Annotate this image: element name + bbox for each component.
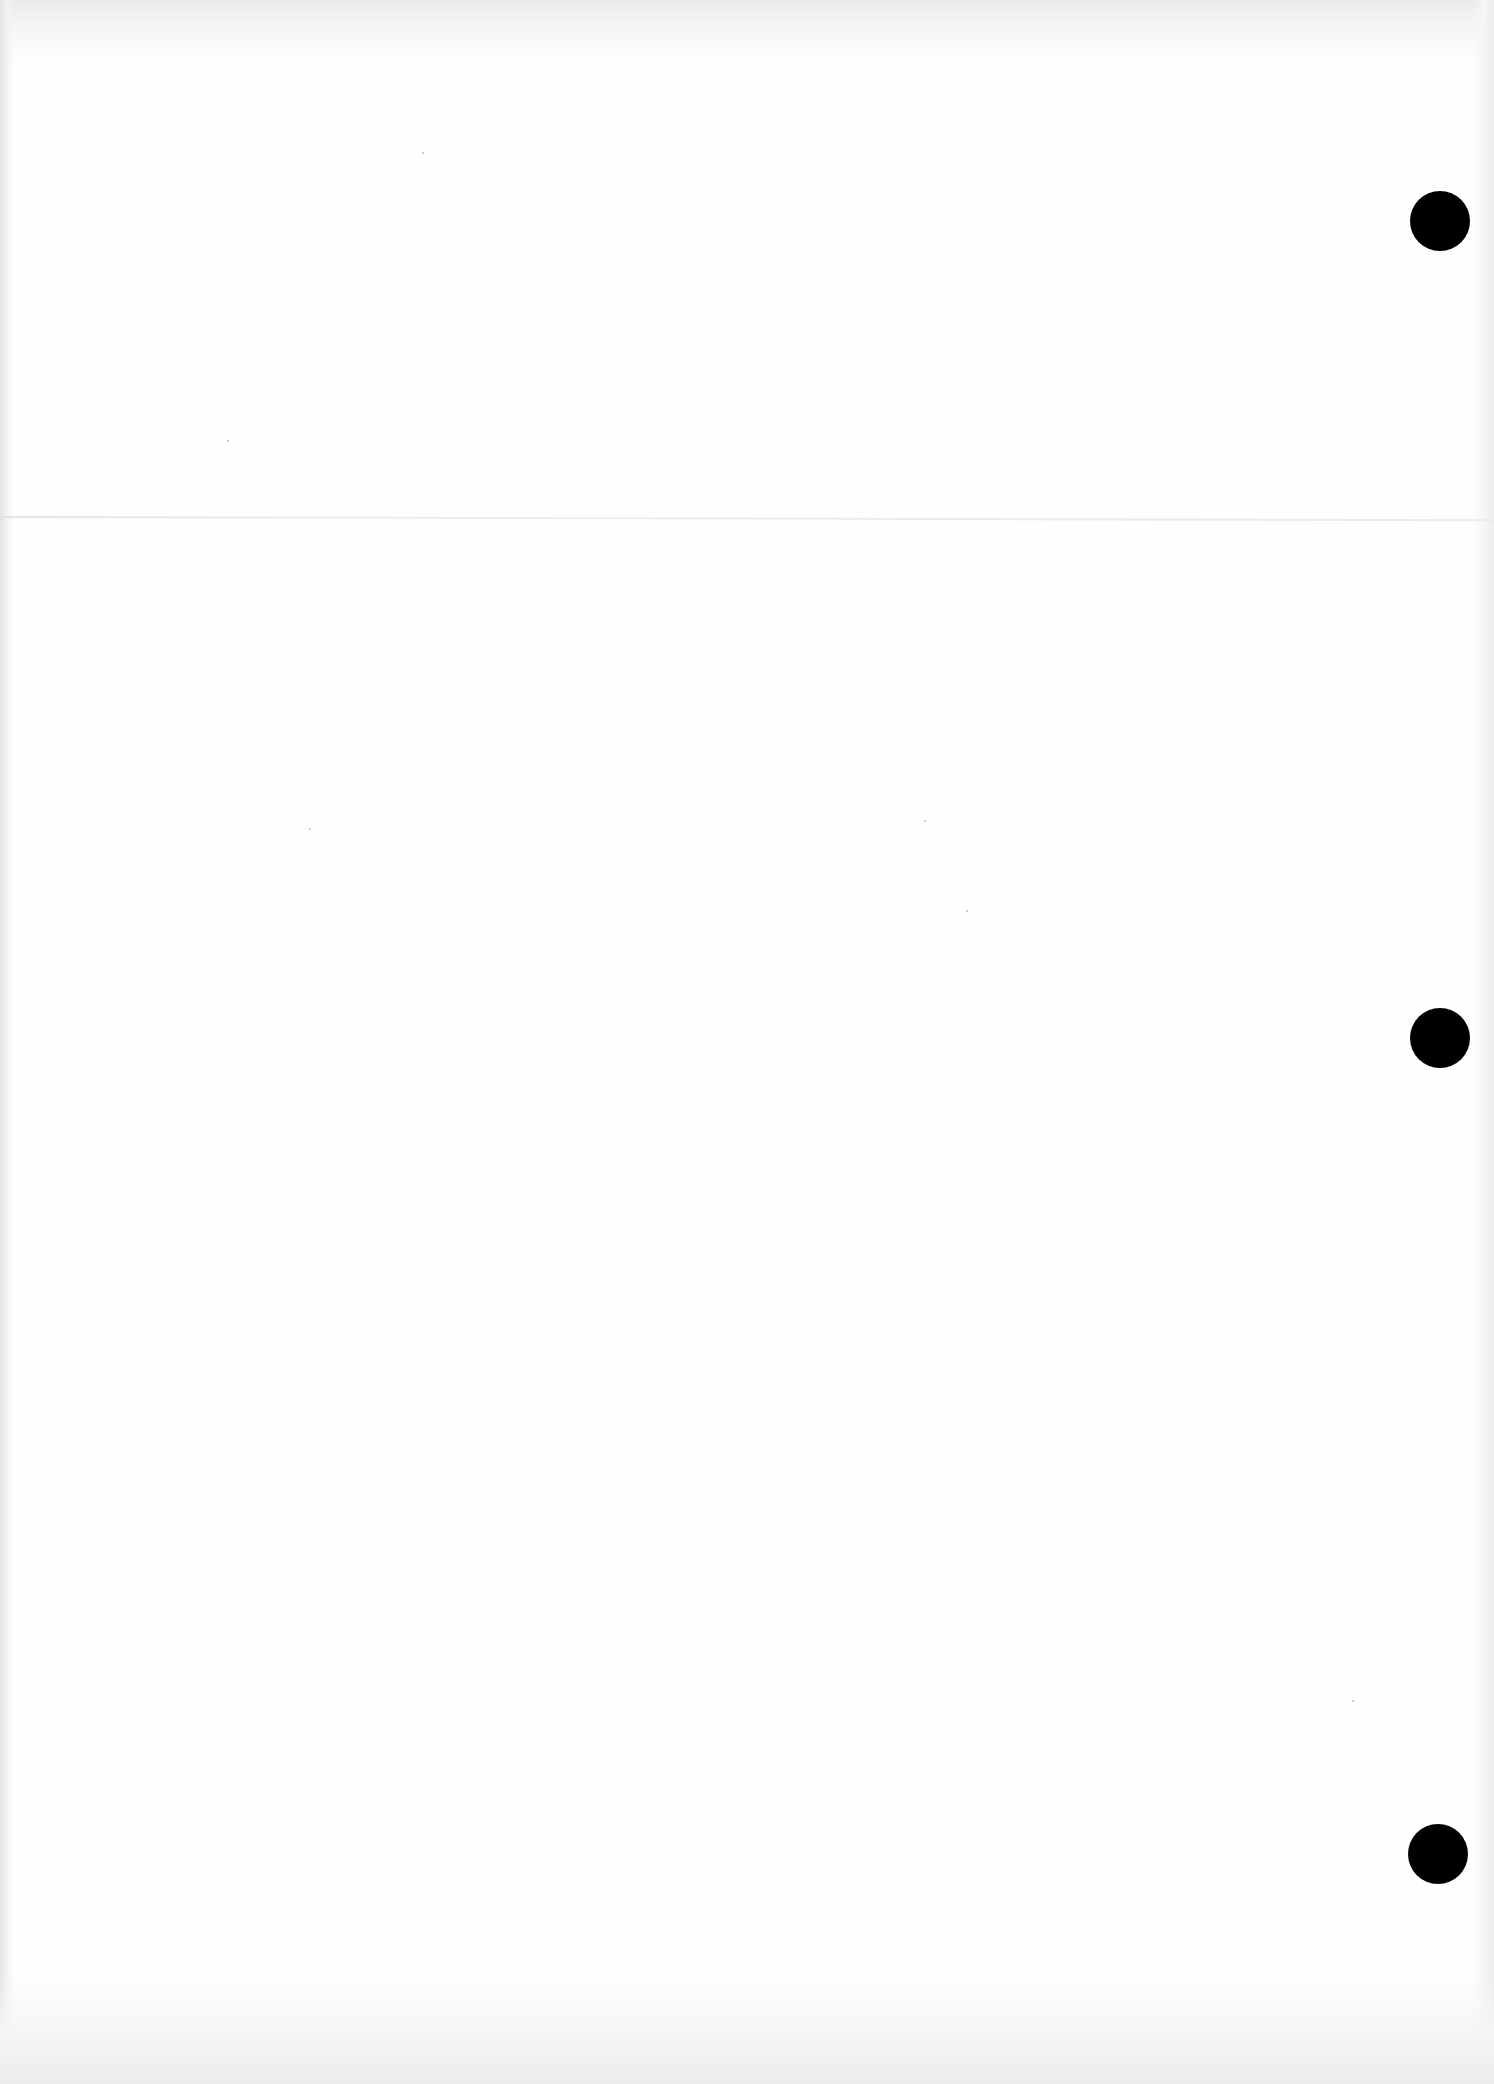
blank-page — [0, 0, 1494, 2084]
scan-speck — [966, 910, 968, 912]
scan-shadow-right — [1472, 0, 1494, 2084]
scan-speck — [1352, 1700, 1354, 1702]
scan-shadow-bottom — [0, 1974, 1494, 2084]
scan-shadow-top — [0, 0, 1494, 60]
scan-speck — [924, 820, 926, 822]
scan-speck — [422, 152, 424, 154]
fold-crease — [0, 516, 1494, 521]
scan-shadow-left — [0, 0, 14, 2084]
punch-hole-middle — [1410, 1008, 1470, 1068]
scan-speck — [227, 440, 229, 442]
scan-speck — [309, 828, 311, 830]
punch-hole-bottom — [1408, 1824, 1468, 1884]
punch-hole-top — [1410, 191, 1470, 251]
